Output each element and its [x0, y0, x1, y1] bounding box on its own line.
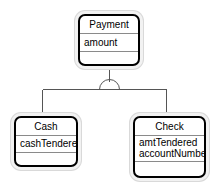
class-name-compartment-cash: Cash	[16, 118, 76, 135]
class-operations-compartment-check	[135, 161, 204, 176]
class-name-cash: Cash	[16, 118, 76, 136]
class-operations-compartment-payment	[80, 51, 138, 64]
class-attribute: amount	[84, 37, 138, 48]
class-attribute: cashTendered	[20, 138, 76, 149]
class-name-payment: Payment	[80, 16, 138, 34]
class-name-compartment-check: Check	[135, 118, 204, 135]
class-attributes-compartment-payment: amount	[80, 33, 138, 51]
class-box-payment[interactable]: Payment amount	[78, 14, 140, 66]
class-name-compartment-payment: Payment	[80, 16, 138, 33]
class-operations-compartment-cash	[16, 152, 76, 165]
class-attributes-compartment-cash: cashTendered	[16, 135, 76, 152]
class-box-cash[interactable]: Cash cashTendered	[14, 116, 78, 167]
class-attributes-compartment-check: amtTendered accountNumber	[135, 135, 204, 161]
class-name-check: Check	[135, 118, 204, 136]
uml-class-diagram: Payment amount Cash cashTendered Check a…	[0, 0, 220, 187]
class-attribute: amtTendered	[139, 137, 204, 148]
class-attribute: accountNumber	[139, 148, 204, 159]
class-box-check[interactable]: Check amtTendered accountNumber	[133, 116, 206, 178]
